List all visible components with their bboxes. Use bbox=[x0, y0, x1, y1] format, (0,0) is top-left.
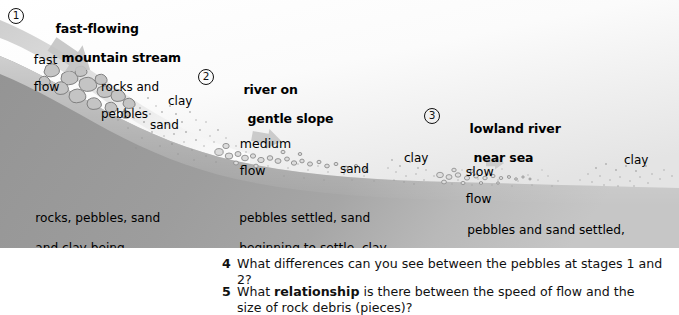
stage-1-desc-line1: rocks, pebbles, sand bbox=[35, 211, 160, 225]
stage-2-desc-line2: beginning to settle, clay bbox=[239, 241, 386, 248]
stage-2-desc-line1: pebbles settled, sand bbox=[239, 211, 370, 225]
stage-1-flow-label: fast flow bbox=[10, 40, 60, 106]
stage-3-number: 3 bbox=[424, 108, 440, 124]
stage-1-description: rocks, pebbles, sand and clay being tran… bbox=[12, 196, 160, 248]
stage-2-flow-label: medium flow bbox=[216, 124, 291, 190]
stage-2-flow-line1: medium bbox=[240, 136, 291, 151]
question-4: 4 What differences can you see between t… bbox=[222, 256, 672, 287]
material-label-sand-mid: sand bbox=[340, 163, 369, 176]
stage-3-flow-line2: flow bbox=[466, 191, 492, 206]
question-5-text-line2: size of rock debris (pieces)? bbox=[237, 300, 672, 315]
stage-1-desc-line2: and clay being bbox=[35, 241, 125, 248]
stage-1-material-line1: rocks and bbox=[101, 80, 159, 94]
stage-1-title-line2: mountain stream bbox=[62, 51, 181, 65]
stage-1-title-line1: fast-flowing bbox=[56, 21, 139, 36]
question-5-number: 5 bbox=[222, 284, 236, 300]
stage-2-description: pebbles settled, sand beginning to settl… bbox=[216, 196, 397, 248]
stage-1-material-line2: pebbles bbox=[101, 107, 148, 121]
question-5: 5 What relationship is there between the… bbox=[222, 284, 672, 315]
material-label-clay-mid: clay bbox=[404, 152, 428, 165]
question-5-text-line1: What relationship is there between the s… bbox=[237, 284, 672, 300]
stage-3-desc-line1: pebbles and sand settled, bbox=[467, 223, 625, 237]
stage-3-description: pebbles and sand settled, clay beginning… bbox=[444, 208, 625, 248]
stage-2-title-line1: river on bbox=[244, 82, 298, 97]
stage-3-flow-line1: slow bbox=[466, 164, 494, 179]
stage-1-material-label: rocks and pebbles bbox=[78, 68, 159, 135]
question-4-text: What differences can you see between the… bbox=[237, 256, 672, 287]
stage-1-flow-line1: fast bbox=[34, 52, 57, 67]
stage-1-number: 1 bbox=[8, 8, 24, 24]
stage-1-flow-line2: flow bbox=[34, 79, 60, 94]
river-stages-diagram: 1 fast-flowing mountain stream fast flow… bbox=[0, 0, 679, 248]
stage-2-number: 2 bbox=[198, 69, 214, 85]
questions-block: 4 What differences can you see between t… bbox=[0, 250, 679, 314]
material-label-sand-upper: sand bbox=[150, 119, 179, 132]
stage-2-flow-line2: flow bbox=[240, 163, 266, 178]
question-4-number: 4 bbox=[222, 256, 236, 272]
stage-3-title-line1: lowland river bbox=[470, 121, 561, 136]
material-label-clay-upper: clay bbox=[168, 95, 192, 108]
material-label-clay-right: clay bbox=[624, 154, 648, 167]
